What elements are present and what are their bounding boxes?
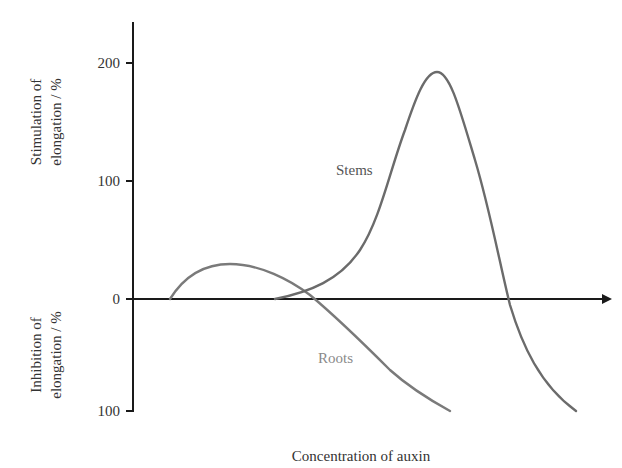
y-axis-title-lower-line2: elongation / % — [48, 311, 64, 398]
y-tick-label-0: 0 — [113, 291, 121, 307]
y-axis-title-upper-line2: elongation / % — [48, 78, 64, 165]
y-tick-label-neg100: 100 — [98, 403, 121, 419]
x-axis-title: Concentration of auxin — [292, 448, 431, 464]
y-tick-label-100: 100 — [98, 173, 121, 189]
roots-label: Roots — [318, 350, 353, 366]
y-axis-title-upper-line1: Stimulation of — [28, 79, 44, 165]
auxin-chart: 200 100 0 100 Stimulation of elongation … — [0, 0, 622, 468]
y-tick-label-200: 200 — [98, 55, 121, 71]
y-axis-title-lower-line1: Inhibition of — [28, 317, 44, 392]
stems-label: Stems — [336, 162, 373, 178]
roots-curve — [170, 264, 450, 411]
